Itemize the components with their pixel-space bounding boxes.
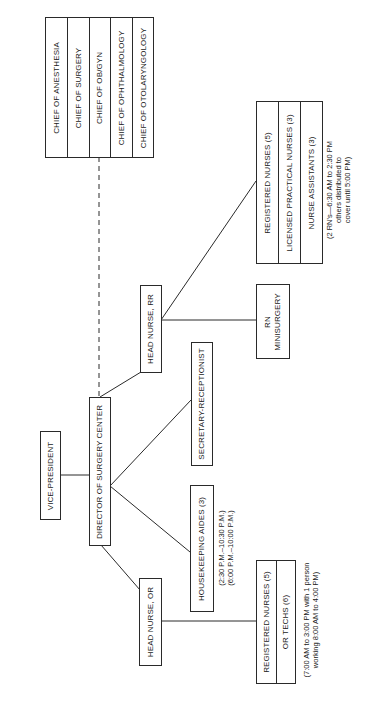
rr-registered-nurses: REGISTERED NURSES (5) <box>263 132 273 234</box>
chief-obgyn: CHIEF OF OB/GYN <box>95 51 105 123</box>
chief-obgyn-cell: CHIEF OF OB/GYN <box>90 18 111 157</box>
rn-minisurgery-line-1: RN <box>263 293 273 350</box>
org-chart: CHIEF OF ANESTHESIA CHIEF OF SURGERY CHI… <box>0 0 377 704</box>
connector-director-hnrr <box>100 372 141 397</box>
chief-surgery: CHIEF OF SURGERY <box>74 47 84 128</box>
chief-surgery-cell: CHIEF OF SURGERY <box>68 18 90 157</box>
secretary-receptionist: SECRETARY-RECEPTIONIST <box>197 348 207 459</box>
or-staff-box: REGISTERED NURSES (5) OR TECHS (6) <box>256 560 296 684</box>
rn-minisurgery-label: RN MINISURGERY <box>263 293 283 350</box>
director-box: DIRECTOR OF SURGERY CENTER <box>89 397 111 546</box>
chief-ophthalmology: CHIEF OF OPHTHALMOLOGY <box>117 30 127 145</box>
head-nurse-or: HEAD NURSE, OR <box>146 587 156 657</box>
connector-hnrr-staff <box>161 181 256 320</box>
housekeeping-note: (2:30 P.M.–10:30 P.M.) (6:00 P.M.–10:00 … <box>217 488 237 608</box>
rr-na-cell: NURSE ASSISTANTS (3) <box>301 102 322 263</box>
vice-president-box: VICE-PRESIDENT <box>40 431 61 520</box>
head-nurse-or-box: HEAD NURSE, OR <box>139 578 162 666</box>
housekeeping-note-line-2: (6:00 P.M.–10:00 P.M.) <box>226 488 235 608</box>
rr-note-line-3: cover until 5:00 PM) <box>343 120 352 260</box>
or-note: (7:00 AM to 3:00 PM with 1 person workin… <box>302 550 322 690</box>
or-note-line-1: (7:00 AM to 3:00 PM with 1 person <box>302 550 311 690</box>
chief-anesthesia: CHIEF OF ANESTHESIA <box>52 42 62 134</box>
housekeeping-aides: HOUSEKEEPING AIDES (3) <box>197 496 207 600</box>
housekeeping-note-line-1: (2:30 P.M.–10:30 P.M.) <box>217 488 226 608</box>
rr-lpn-cell: LICENSED PRACTICAL NURSES (3) <box>279 102 301 263</box>
rr-note-line-1: (2 RN's—6:30 AM to 2:30 PM <box>325 120 334 260</box>
connector-director-hnor <box>101 545 140 590</box>
connector-director-secretary <box>110 400 191 486</box>
rr-nurse-assistants: NURSE ASSISTANTS (3) <box>307 136 317 229</box>
director-of-surgery-center: DIRECTOR OF SURGERY CENTER <box>95 404 105 538</box>
chief-otolaryngology-cell: CHIEF OF OTOLARYNGOLOGY <box>133 18 154 157</box>
rn-minisurgery-box: RN MINISURGERY <box>256 284 290 359</box>
head-nurse-rr-box: HEAD NURSE, RR <box>140 285 162 373</box>
chief-otolaryngology: CHIEF OF OTOLARYNGOLOGY <box>139 27 149 147</box>
chief-anesthesia-cell: CHIEF OF ANESTHESIA <box>46 18 68 157</box>
chief-ophthalmology-cell: CHIEF OF OPHTHALMOLOGY <box>111 18 133 157</box>
connector-director-housekeeping <box>110 486 190 552</box>
rr-note: (2 RN's—6:30 AM to 2:30 PM others distri… <box>325 120 355 260</box>
or-techs-cell: OR TECHS (6) <box>277 561 295 683</box>
vice-president: VICE-PRESIDENT <box>46 441 56 510</box>
rn-minisurgery-line-2: MINISURGERY <box>273 293 283 350</box>
rr-note-line-2: others distributed to <box>334 120 343 260</box>
or-rn-cell: REGISTERED NURSES (5) <box>257 561 277 683</box>
secretary-box: SECRETARY-RECEPTIONIST <box>191 342 213 466</box>
rr-rn-cell: REGISTERED NURSES (5) <box>257 102 279 263</box>
rr-licensed-practical-nurses: LICENSED PRACTICAL NURSES (3) <box>285 114 295 251</box>
or-techs: OR TECHS (6) <box>281 595 291 649</box>
housekeeping-box: HOUSEKEEPING AIDES (3) <box>190 485 214 612</box>
head-nurse-rr: HEAD NURSE, RR <box>146 294 156 364</box>
or-registered-nurses: REGISTERED NURSES (5) <box>262 571 272 673</box>
chiefs-box: CHIEF OF ANESTHESIA CHIEF OF SURGERY CHI… <box>45 17 154 158</box>
rr-staff-box: REGISTERED NURSES (5) LICENSED PRACTICAL… <box>256 101 323 264</box>
or-note-line-2: working 8:00 AM to 4:00 PM) <box>311 550 320 690</box>
